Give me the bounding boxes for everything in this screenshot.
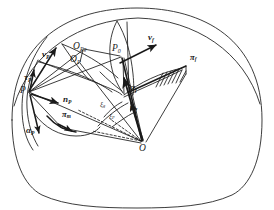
label-plane-pim: πm — [62, 110, 71, 120]
label-vector-alphaP: αP — [26, 126, 34, 136]
geometry-canvas — [0, 0, 274, 210]
label-vector-vf: vf — [148, 33, 154, 43]
angle-arc-xi-P — [112, 113, 133, 127]
label-vector-alphaf: αf — [130, 83, 137, 93]
label-point-OP: OP — [70, 55, 80, 66]
label-angle-xi-g: ξg — [100, 101, 105, 109]
label-point-P0: P0 — [112, 44, 121, 55]
label-vector-nf: nf — [130, 103, 137, 113]
surface-curve-lower-sweep — [39, 62, 112, 92]
dome-horizon-arc — [14, 18, 260, 106]
surface-fold-main — [100, 72, 122, 91]
vector-nP — [31, 94, 58, 103]
plane-hatching — [156, 69, 186, 87]
label-vector-nP: nP — [63, 95, 71, 105]
label-plane-pif: πf — [190, 53, 196, 63]
geometry-figure: P P0 O OP OPg vP vf nP nf αP αf τP πf πm — [0, 0, 274, 210]
label-vector-vP: vP — [42, 50, 49, 60]
label-point-P: P — [20, 86, 26, 97]
label-vector-tauP: τP — [24, 73, 31, 83]
vector-vf — [120, 45, 156, 63]
label-angle-xi-P: ξP — [109, 113, 115, 121]
label-point-OPg: OPg — [73, 42, 86, 53]
edge-P0-to-O-b — [124, 58, 143, 141]
label-point-O: O — [139, 144, 146, 155]
dome-outline — [12, 8, 262, 208]
